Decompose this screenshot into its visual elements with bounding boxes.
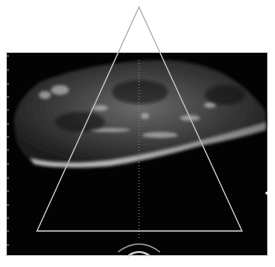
depth-ruler [7, 56, 9, 245]
ultrasound-image [0, 0, 275, 267]
focus-marker [265, 191, 268, 194]
transducer-arc [118, 244, 160, 252]
tissue-structure [14, 60, 266, 168]
